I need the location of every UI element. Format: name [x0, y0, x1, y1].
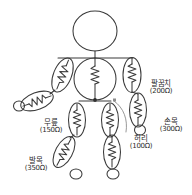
label-ankle-value: (350Ω) — [14, 165, 58, 172]
label-ankle: 발목 (350Ω) — [14, 157, 58, 172]
label-knee: 무릎 (150Ω) — [30, 119, 72, 134]
left-upper-arm-capsule — [47, 55, 77, 95]
right-foot-circle — [107, 169, 119, 179]
left-forearm — [18, 87, 56, 115]
torso-resistor — [91, 66, 99, 84]
right-forearm-resistor — [134, 100, 141, 118]
right-thigh-resistor — [106, 110, 113, 128]
left-upper-arm-resistor — [56, 64, 70, 84]
left-upper-arm-wire-bottom — [57, 82, 60, 88]
label-elbow-value: (200Ω) — [138, 88, 184, 95]
label-wrist-value: (300Ω) — [150, 126, 192, 133]
right-upper-arm-resistor — [128, 64, 136, 82]
label-wrist: 손목 (300Ω) — [150, 118, 192, 133]
label-knee-value: (150Ω) — [30, 127, 72, 134]
head-circle — [73, 11, 117, 51]
right-shin — [104, 135, 121, 169]
right-forearm — [130, 93, 147, 127]
left-shin-wire-top — [68, 139, 71, 144]
right-thigh — [102, 103, 119, 137]
right-shin-resistor — [108, 142, 115, 160]
waist-leader-line — [114, 101, 127, 132]
body-outline-group — [14, 11, 147, 179]
left-foot-circle — [70, 169, 82, 179]
left-forearm-resistor — [28, 94, 47, 107]
left-upper-arm — [47, 55, 77, 95]
left-thigh-resistor — [73, 110, 80, 128]
label-waist: 허리 (100Ω) — [120, 135, 162, 150]
label-elbow: 팔꿈치 (200Ω) — [138, 80, 184, 95]
left-forearm-wire-top — [45, 96, 51, 98]
label-waist-value: (100Ω) — [120, 143, 162, 150]
left-upper-arm-wire-top — [66, 60, 68, 66]
left-shin-resistor — [57, 142, 72, 161]
resistance-body-diagram: 팔꿈치 (200Ω) 손목 (300Ω) 허리 (100Ω) 무릎 (150Ω)… — [0, 0, 192, 195]
